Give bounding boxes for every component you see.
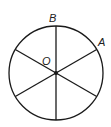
circle-diagram: B A O [0,0,111,127]
center-point [54,71,58,75]
label-o: O [42,55,51,67]
label-b: B [49,12,56,24]
label-a: A [97,36,105,48]
